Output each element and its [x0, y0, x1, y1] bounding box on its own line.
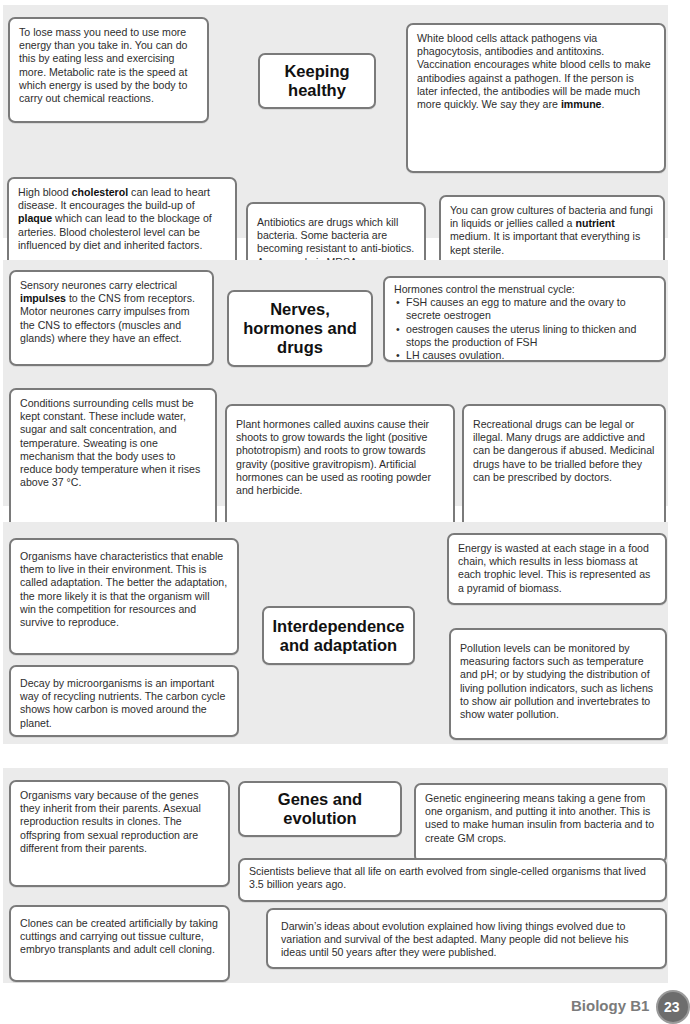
topic-title-text: Interdependence and adaptation [268, 617, 409, 655]
keyword-immune: immune [561, 98, 602, 110]
box-darwin: Darwin’s ideas about evolution explained… [266, 908, 667, 969]
box-text: Sensory neurones carry electrical [20, 279, 177, 291]
bullet-item: LH causes ovulation. [406, 349, 655, 362]
box-text: Clones can be created artificially by ta… [20, 917, 218, 955]
box-text: Organisms have characteristics that enab… [20, 550, 227, 628]
bullet-item: oestrogen causes the uterus lining to th… [406, 323, 655, 349]
box-text: Conditions surrounding cells must be kep… [20, 397, 200, 488]
topic-title-text: Keeping healthy [277, 62, 357, 100]
box-losing-mass: To lose mass you need to use more energy… [8, 17, 209, 123]
box-menstrual-cycle: Hormones control the menstrual cycle: FS… [383, 276, 666, 362]
box-recreational-drugs: Recreational drugs can be legal or illeg… [462, 404, 666, 532]
topic-title-nerves-hormones-drugs: Nerves, hormones and drugs [227, 290, 373, 367]
box-text: You can grow cultures of bacteria and fu… [450, 204, 653, 229]
topic-title-genes-evolution: Genes and evolution [238, 781, 402, 837]
topic-title-text: Nerves, hormones and drugs [235, 300, 365, 357]
keyword-impulses: impulses [20, 292, 66, 304]
bullet-item: FSH causes an egg to mature and the ovar… [406, 296, 655, 322]
topic-title-interdependence-adaptation: Interdependence and adaptation [262, 606, 415, 665]
box-text: Organisms vary because of the genes they… [20, 789, 201, 854]
box-energy-biomass: Energy is wasted at each stage in a food… [447, 533, 667, 605]
box-text: Plant hormones called auxins cause their… [236, 418, 431, 496]
box-text: Genetic engineering means taking a gene … [425, 792, 654, 844]
box-adaptation: Organisms have characteristics that enab… [9, 538, 239, 655]
bullet-list: FSH causes an egg to mature and the ovar… [394, 296, 655, 362]
box-white-blood-cells: White blood cells attack pathogens via p… [406, 23, 666, 173]
keyword-plaque: plaque [18, 212, 52, 224]
box-text: To lose mass you need to use more energy… [19, 26, 187, 104]
box-homeostasis: Conditions surrounding cells must be kep… [9, 388, 217, 536]
box-genetic-engineering: Genetic engineering means taking a gene … [414, 783, 667, 863]
box-text: Pollution levels can be monitored by mea… [460, 642, 653, 720]
box-neurones: Sensory neurones carry electrical impuls… [9, 270, 214, 366]
section-keeping-healthy: To lose mass you need to use more energy… [3, 5, 668, 238]
box-plant-hormones: Plant hormones called auxins cause their… [225, 404, 455, 532]
box-variation: Organisms vary because of the genes they… [9, 780, 230, 887]
keyword-nutrient: nutrient [575, 217, 614, 229]
section-nerves-hormones-drugs: Sensory neurones carry electrical impuls… [3, 260, 668, 506]
box-text: Darwin’s ideas about evolution explained… [281, 920, 628, 958]
box-text: medium. It is important that everything … [450, 230, 640, 255]
page-number-badge: 23 [656, 990, 690, 1024]
box-text: Recreational drugs can be legal or illeg… [473, 418, 654, 483]
topic-title-text: Genes and evolution [265, 790, 375, 828]
keyword-cholesterol: cholesterol [72, 186, 129, 198]
book-title-footer: Biology B1 [571, 997, 649, 1014]
box-text: Scientists believe that all life on eart… [249, 865, 646, 890]
box-intro: Hormones control the menstrual cycle: [394, 283, 655, 296]
box-text-end: . [602, 98, 605, 110]
box-text: Decay by microorganisms is an important … [20, 677, 225, 729]
box-text: Energy is wasted at each stage in a food… [458, 542, 650, 594]
topic-title-keeping-healthy: Keeping healthy [258, 53, 376, 109]
box-decay: Decay by microorganisms is an important … [9, 665, 239, 737]
section-genes-evolution: Organisms vary because of the genes they… [3, 768, 668, 983]
box-text: White blood cells attack pathogens via p… [417, 32, 651, 110]
box-pollution: Pollution levels can be monitored by mea… [449, 628, 667, 740]
section-interdependence-adaptation: Organisms have characteristics that enab… [3, 522, 668, 744]
box-text: High blood [18, 186, 72, 198]
box-origin-of-life: Scientists believe that all life on eart… [238, 858, 667, 902]
box-cloning: Clones can be created artificially by ta… [9, 905, 230, 982]
